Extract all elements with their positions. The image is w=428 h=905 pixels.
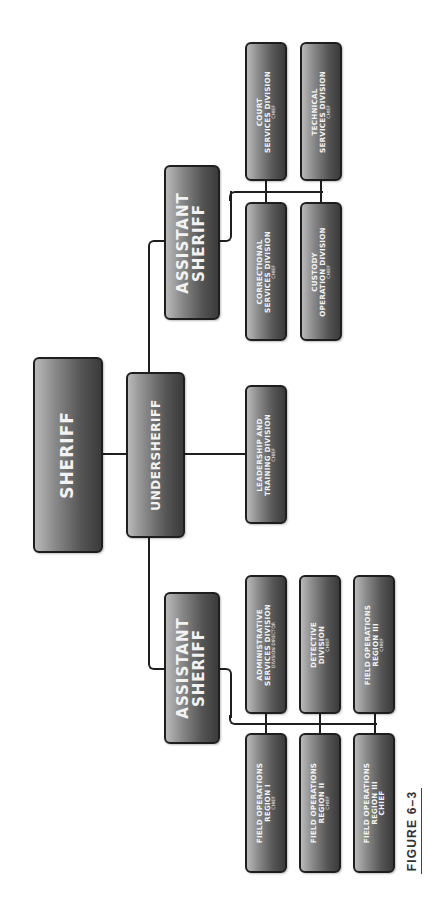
node-fo2-line2: REGION II xyxy=(317,763,325,843)
figure-caption: FIGURE 6–3 xyxy=(404,790,420,872)
node-sheriff: SHERIFF xyxy=(33,357,103,553)
node-field-ops-iii-lower-label: FIELD OPERATIONS REGION III CHIEF xyxy=(363,763,386,843)
node-field-ops-region-i: FIELD OPERATIONS REGION I CHIEF xyxy=(245,733,287,873)
connector-admin-fo1 xyxy=(265,712,267,734)
node-undersheriff-title: UNDERSHERIFF xyxy=(149,399,162,510)
connector-bottom-bus xyxy=(236,723,377,725)
connector-undersheriff-trunk-down xyxy=(148,536,150,663)
node-leadership-line2: TRAINING DIVISION xyxy=(263,413,271,495)
node-technical-services: TECHNICAL SERVICES DIVISION CHIEF xyxy=(300,42,342,181)
connector-undersheriff-trunk-up xyxy=(148,248,150,373)
node-administrative-services: ADMINISTRATIVE SERVICES DIVISION DIVISIO… xyxy=(245,575,287,714)
node-field-ops-i-label: FIELD OPERATIONS REGION I CHIEF xyxy=(256,763,277,843)
connector-court-correctional xyxy=(265,180,267,203)
node-assistant-sheriff-top-line2: SHERIFF xyxy=(192,192,208,293)
node-assistant-sheriff-bottom-line2: SHERIFF xyxy=(192,617,208,718)
node-detective-line2: DIVISION xyxy=(317,622,325,668)
node-detective-division-label: DETECTIVE DIVISION CHIEF xyxy=(310,622,331,668)
node-court-role: CHIEF xyxy=(272,71,277,153)
node-field-ops-region-ii: FIELD OPERATIONS REGION II CHIEF xyxy=(299,733,341,873)
node-admin-role: DIVISION DIRECTOR xyxy=(272,604,277,686)
connector-bottom-assistant-out xyxy=(218,668,232,718)
node-assistant-sheriff-bottom: ASSISTANT SHERIFF xyxy=(164,592,220,744)
node-custody-role: CHIEF xyxy=(327,227,332,316)
node-field-ops-region-iii-lower: FIELD OPERATIONS REGION III CHIEF xyxy=(353,733,395,873)
node-court-services-label: COURT SERVICES DIVISION CHIEF xyxy=(256,71,277,153)
node-technical-services-label: TECHNICAL SERVICES DIVISION CHIEF xyxy=(311,71,332,153)
node-fo3u-line2: REGION III xyxy=(371,604,379,684)
node-field-ops-region-iii-upper: FIELD OPERATIONS REGION III CHIEF xyxy=(353,575,395,714)
node-assistant-sheriff-top-label: ASSISTANT SHERIFF xyxy=(176,192,208,293)
node-fo3u-role: CHIEF xyxy=(380,604,385,684)
node-correctional-services-label: CORRECTIONAL SERVICES DIVISION CHIEF xyxy=(256,231,277,313)
figure-caption-underline xyxy=(421,788,422,874)
node-field-ops-ii-label: FIELD OPERATIONS REGION II CHIEF xyxy=(310,763,331,843)
connector-undersheriff-leadership xyxy=(184,453,246,455)
connector-sheriff-undersheriff xyxy=(102,453,127,455)
node-admin-line2: SERVICES DIVISION xyxy=(263,604,271,686)
node-court-line2: SERVICES DIVISION xyxy=(263,71,271,153)
node-detective-division: DETECTIVE DIVISION CHIEF xyxy=(299,575,341,714)
node-fo2-role: CHIEF xyxy=(326,763,331,843)
node-court-services: COURT SERVICES DIVISION CHIEF xyxy=(245,42,287,181)
node-leadership: LEADERSHIP AND TRAINING DIVISION CHIEF xyxy=(245,385,287,524)
node-technical-line2: SERVICES DIVISION xyxy=(318,71,326,153)
connector-technical-custody xyxy=(320,180,322,203)
node-leadership-role: CHIEF xyxy=(272,413,277,495)
node-custody-line2: OPERATION DIVISION xyxy=(318,227,326,316)
node-leadership-label: LEADERSHIP AND TRAINING DIVISION CHIEF xyxy=(256,413,277,495)
node-correctional-line2: SERVICES DIVISION xyxy=(263,231,271,313)
connector-detective-fo2 xyxy=(319,712,321,734)
node-undersheriff: UNDERSHERIFF xyxy=(126,372,185,538)
figure-caption-text: FIGURE 6–3 xyxy=(405,791,419,872)
node-fo3l-role: CHIEF xyxy=(378,763,386,843)
connector-fo3-fo3 xyxy=(374,712,376,734)
node-correctional-role: CHIEF xyxy=(272,231,277,313)
node-fo1-role: CHIEF xyxy=(272,763,277,843)
node-sheriff-title: SHERIFF xyxy=(59,411,77,499)
node-fo1-line2: REGION I xyxy=(263,763,271,843)
connector-top-bus xyxy=(236,191,323,193)
node-custody-operation: CUSTODY OPERATION DIVISION CHIEF xyxy=(300,202,342,341)
node-technical-role: CHIEF xyxy=(327,71,332,153)
node-custody-operation-label: CUSTODY OPERATION DIVISION CHIEF xyxy=(311,227,332,316)
node-assistant-sheriff-bottom-label: ASSISTANT SHERIFF xyxy=(176,617,208,718)
node-assistant-sheriff-top: ASSISTANT SHERIFF xyxy=(164,165,220,320)
node-correctional-services: CORRECTIONAL SERVICES DIVISION CHIEF xyxy=(245,202,287,341)
node-administrative-services-label: ADMINISTRATIVE SERVICES DIVISION DIVISIO… xyxy=(256,604,277,686)
node-detective-role: CHIEF xyxy=(326,622,331,668)
node-field-ops-iii-upper-label: FIELD OPERATIONS REGION III CHIEF xyxy=(364,604,385,684)
